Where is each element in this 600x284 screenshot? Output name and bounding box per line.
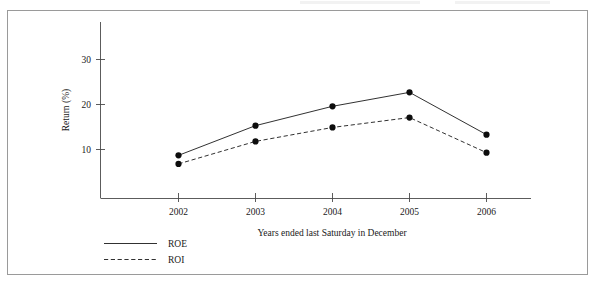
series-line-roe <box>179 92 487 155</box>
data-point-roe-2004 <box>329 103 335 109</box>
series-markers-roe <box>175 89 489 158</box>
legend-label-roi: ROI <box>168 255 184 265</box>
data-point-roi-2006 <box>483 150 489 156</box>
x-axis-ticks <box>179 193 487 202</box>
series-markers-roi <box>175 114 489 167</box>
data-point-roi-2004 <box>329 124 335 130</box>
chart-legend: ROE ROI <box>104 239 187 265</box>
y-tick-label-20: 20 <box>82 100 92 110</box>
data-point-roi-2005 <box>406 114 412 120</box>
x-tick-label-2002: 2002 <box>169 207 188 217</box>
x-axis-title: Years ended last Saturday in December <box>257 228 407 238</box>
x-tick-label-2006: 2006 <box>477 207 496 217</box>
data-point-roe-2003 <box>252 123 258 129</box>
x-tick-label-2004: 2004 <box>323 207 342 217</box>
line-chart-plot: 30 20 10 Return (%) 2002 2003 2004 2005 … <box>0 0 600 284</box>
data-point-roi-2002 <box>175 161 181 167</box>
x-tick-label-2005: 2005 <box>400 207 419 217</box>
data-point-roe-2002 <box>175 152 181 158</box>
x-tick-label-2003: 2003 <box>246 207 265 217</box>
y-tick-label-30: 30 <box>82 55 92 65</box>
data-point-roe-2005 <box>406 89 412 95</box>
data-point-roe-2006 <box>483 132 489 138</box>
legend-label-roe: ROE <box>168 239 187 249</box>
data-point-roi-2003 <box>252 138 258 144</box>
y-axis-title: Return (%) <box>61 89 72 131</box>
y-tick-label-10: 10 <box>82 145 92 155</box>
chart-figure: 30 20 10 Return (%) 2002 2003 2004 2005 … <box>0 0 600 284</box>
